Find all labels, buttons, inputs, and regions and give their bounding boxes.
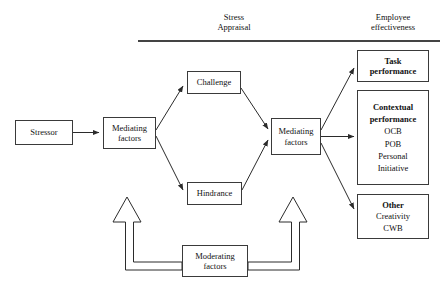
node-contextual-performance-line2: performance [370,114,417,124]
node-mediating-factors-1-line2: factors [118,133,141,143]
node-contextual-item-personal: Personal [378,151,407,161]
node-other-item-creativity: Creativity [376,211,410,221]
node-mediating-factors-1-line1: Mediating [112,123,147,133]
node-moderating-factors-line1: Moderating [195,251,235,261]
arrow-mediating-1-to-challenge [156,86,183,130]
node-stressor[interactable]: Stressor [15,120,73,145]
node-mediating-factors-2-line2: factors [284,137,307,147]
arrow-hindrance-to-mediating-2 [242,140,268,190]
section-header-employee-line1: Employee [345,12,441,22]
arrow-mediating-2-to-other [321,143,354,209]
hollow-arrow-moderating-to-left-path [113,197,182,270]
node-contextual-performance-line1: Contextual [373,102,413,112]
node-contextual-performance[interactable]: Contextual performance OCB POB Personal … [357,90,429,185]
hollow-arrow-moderating-to-right-path [248,197,307,270]
section-header-stress-line2: Appraisal [186,22,282,32]
section-header-employee-effectiveness: Employee effectiveness [345,12,441,32]
node-mediating-factors-2-line1: Mediating [279,126,314,136]
node-hindrance[interactable]: Hindrance [187,182,242,205]
node-mediating-factors-1[interactable]: Mediating factors [103,117,156,149]
node-moderating-factors-line2: factors [203,261,226,271]
section-header-employee-line2: effectiveness [345,22,441,32]
node-challenge[interactable]: Challenge [187,71,241,94]
header-divider-rule [138,40,440,42]
node-contextual-item-pob: POB [385,139,402,149]
arrow-mediating-1-to-hindrance [156,136,183,190]
node-task-performance[interactable]: Task performance [357,50,429,82]
diagram-canvas: Stress Appraisal Employee effectiveness [0,0,444,292]
arrow-mediating-2-to-task [321,68,354,130]
node-contextual-item-initiative: Initiative [378,163,409,173]
node-hindrance-label: Hindrance [197,188,232,198]
node-other-outcomes[interactable]: Other Creativity CWB [357,194,429,239]
node-contextual-item-ocb: OCB [384,126,401,136]
node-other-title: Other [382,200,404,210]
node-challenge-label: Challenge [197,77,231,87]
node-other-item-cwb: CWB [383,223,402,233]
node-task-performance-line1: Task [384,56,401,66]
section-header-stress-appraisal: Stress Appraisal [186,12,282,32]
node-mediating-factors-2[interactable]: Mediating factors [271,118,321,155]
arrow-challenge-to-mediating-2 [241,88,268,129]
node-moderating-factors[interactable]: Moderating factors [182,245,248,277]
section-header-stress-line1: Stress [186,12,282,22]
node-task-performance-line2: performance [370,66,417,76]
node-stressor-label: Stressor [30,127,57,137]
